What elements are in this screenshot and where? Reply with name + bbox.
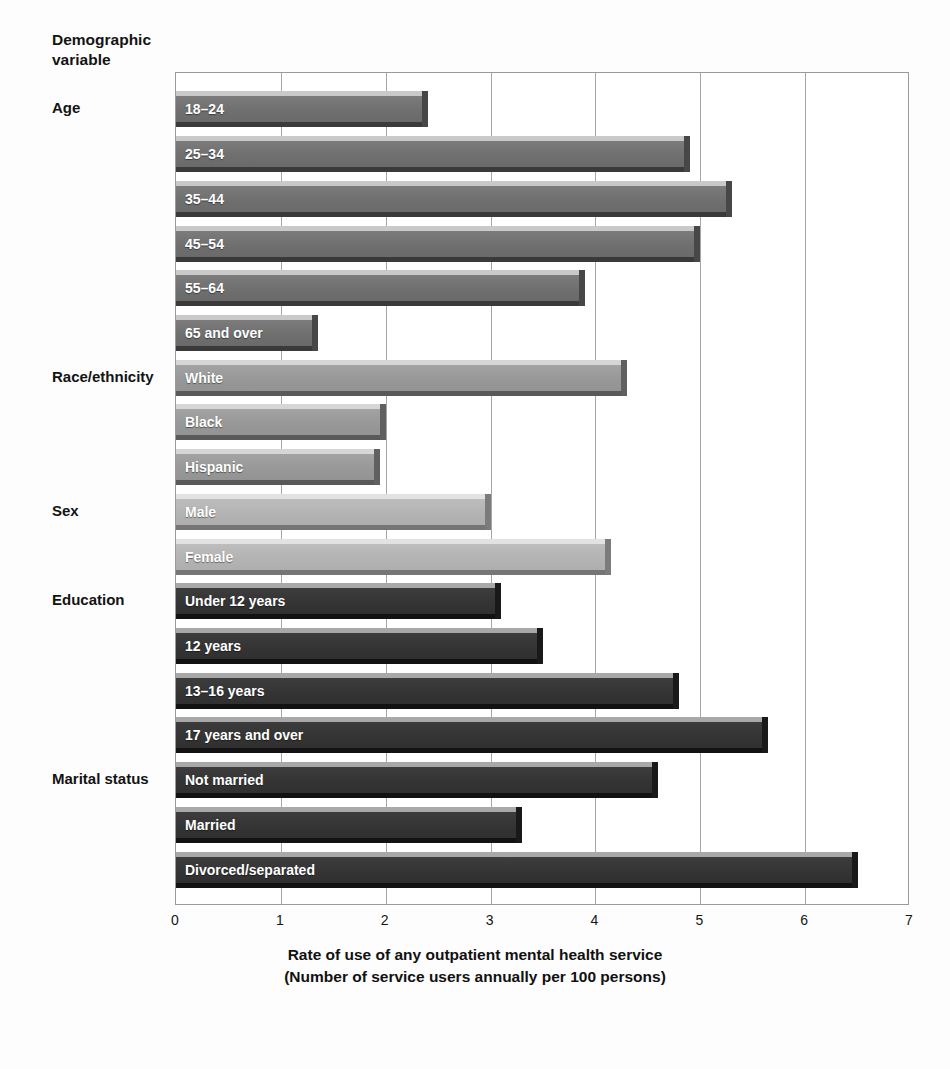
bar-side-facet: [516, 807, 522, 843]
bar-row: Married: [176, 807, 910, 843]
bar-45-54: [176, 226, 700, 262]
bar-row: 17 years and over: [176, 717, 910, 753]
bar-row: 13–16 years: [176, 673, 910, 709]
x-tick-3: 3: [486, 912, 494, 928]
bar-side-facet: [652, 762, 658, 798]
bar-label: 45–54: [185, 236, 224, 252]
bar-side-facet: [621, 360, 627, 396]
group-label-sex: Sex: [52, 502, 79, 519]
bar-label: 25–34: [185, 146, 224, 162]
bar-row: Hispanic: [176, 449, 910, 485]
group-label-marital-status: Marital status: [52, 770, 149, 787]
bar-row: 35–44: [176, 181, 910, 217]
bar-label: 35–44: [185, 191, 224, 207]
bar-label: 13–16 years: [185, 683, 264, 699]
bar-25-34: [176, 136, 690, 172]
bar-bottom-facet: [176, 525, 485, 530]
bar-label: White: [185, 370, 223, 386]
bar-side-facet: [485, 494, 491, 530]
bar-bottom-facet: [176, 122, 422, 127]
bar-bottom-facet: [176, 748, 762, 753]
bar-side-facet: [605, 539, 611, 575]
bar-bottom-facet: [176, 167, 684, 172]
bar-label: 17 years and over: [185, 727, 303, 743]
bar-bottom-facet: [176, 838, 516, 843]
bar-label: 55–64: [185, 280, 224, 296]
axis-title-line-1: Rate of use of any outpatient mental hea…: [0, 944, 950, 966]
bar-label: Under 12 years: [185, 593, 285, 609]
bar-row: 65 and over: [176, 315, 910, 351]
bar-row: Black: [176, 404, 910, 440]
bar-bottom-facet: [176, 257, 694, 262]
demographic-header-line-2: variable: [52, 50, 172, 70]
bar-face-facet: [176, 186, 726, 212]
group-label-race-ethnicity: Race/ethnicity: [52, 368, 154, 385]
bar-row: Not married: [176, 762, 910, 798]
bar-female: [176, 539, 611, 575]
bar-label: 18–24: [185, 101, 224, 117]
chart-page: Demographic variable 18–2425–3435–4445–5…: [0, 0, 950, 1069]
bar-side-facet: [380, 404, 386, 440]
x-tick-1: 1: [276, 912, 284, 928]
bar-label: Hispanic: [185, 459, 243, 475]
bar-label: Black: [185, 414, 222, 430]
bar-face-facet: [176, 141, 684, 167]
demographic-header-line-1: Demographic: [52, 30, 172, 50]
bar-bottom-facet: [176, 346, 312, 351]
bar-label: 12 years: [185, 638, 241, 654]
bar-row: White: [176, 360, 910, 396]
bar-white: [176, 360, 627, 396]
bar-side-facet: [694, 226, 700, 262]
bar-label: Divorced/separated: [185, 862, 315, 878]
bar-bottom-facet: [176, 659, 537, 664]
cropped-text-fragment: [60, 0, 890, 7]
bar-side-facet: [374, 449, 380, 485]
bar-row: 12 years: [176, 628, 910, 664]
group-label-age: Age: [52, 99, 80, 116]
demographic-variable-header: Demographic variable: [52, 30, 172, 70]
bar-side-facet: [422, 91, 428, 127]
bar-face-facet: [176, 544, 605, 570]
bar-bottom-facet: [176, 480, 374, 485]
bar-35-44: [176, 181, 732, 217]
bar-label: 65 and over: [185, 325, 263, 341]
plot-area: 18–2425–3435–4445–5455–6465 and overWhit…: [175, 72, 909, 905]
group-label-education: Education: [52, 591, 125, 608]
x-tick-6: 6: [800, 912, 808, 928]
bar-label: Male: [185, 504, 216, 520]
x-tick-5: 5: [695, 912, 703, 928]
bar-bottom-facet: [176, 435, 380, 440]
bar-face-facet: [176, 499, 485, 525]
bar-bottom-facet: [176, 704, 673, 709]
bar-bottom-facet: [176, 570, 605, 575]
bar-row: Male: [176, 494, 910, 530]
x-tick-7: 7: [905, 912, 913, 928]
bar-label: Female: [185, 549, 233, 565]
bar-55-64: [176, 270, 585, 306]
bar-side-facet: [673, 673, 679, 709]
bar-row: Under 12 years: [176, 583, 910, 619]
bar-side-facet: [684, 136, 690, 172]
bar-face-facet: [176, 275, 579, 301]
bar-bottom-facet: [176, 301, 579, 306]
x-tick-4: 4: [591, 912, 599, 928]
bar-male: [176, 494, 491, 530]
bar-row: Female: [176, 539, 910, 575]
x-tick-0: 0: [171, 912, 179, 928]
bar-bottom-facet: [176, 883, 852, 888]
bar-bottom-facet: [176, 391, 621, 396]
bar-bottom-facet: [176, 212, 726, 217]
bar-bottom-facet: [176, 793, 652, 798]
bar-label: Married: [185, 817, 236, 833]
bar-row: 18–24: [176, 91, 910, 127]
bar-side-facet: [537, 628, 543, 664]
bar-row: 55–64: [176, 270, 910, 306]
bar-row: Divorced/separated: [176, 852, 910, 888]
bar-bottom-facet: [176, 614, 495, 619]
axis-title-line-2: (Number of service users annually per 10…: [0, 966, 950, 988]
bar-face-facet: [176, 231, 694, 257]
bar-side-facet: [762, 717, 768, 753]
bar-side-facet: [495, 583, 501, 619]
bar-side-facet: [579, 270, 585, 306]
bar-row: 45–54: [176, 226, 910, 262]
